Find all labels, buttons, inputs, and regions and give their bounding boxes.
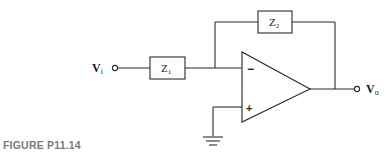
output-terminal: Vo [310, 82, 379, 97]
output-terminal-circle [354, 86, 359, 91]
input-label: Vi [92, 61, 104, 76]
op-amp: − + [242, 52, 310, 122]
output-label: Vo [366, 82, 379, 97]
ground-path [203, 107, 242, 145]
noninverting-sign: + [246, 102, 252, 114]
circuit-diagram: Vi Z1 Z2 − + [0, 0, 391, 161]
input-terminal: Vi [92, 61, 150, 76]
figure-caption: FIGURE P11.14 [3, 139, 81, 151]
z1-impedance: Z1 [150, 57, 185, 79]
inverting-sign: − [247, 62, 254, 76]
ground-icon [203, 137, 223, 145]
input-terminal-circle [112, 65, 117, 70]
